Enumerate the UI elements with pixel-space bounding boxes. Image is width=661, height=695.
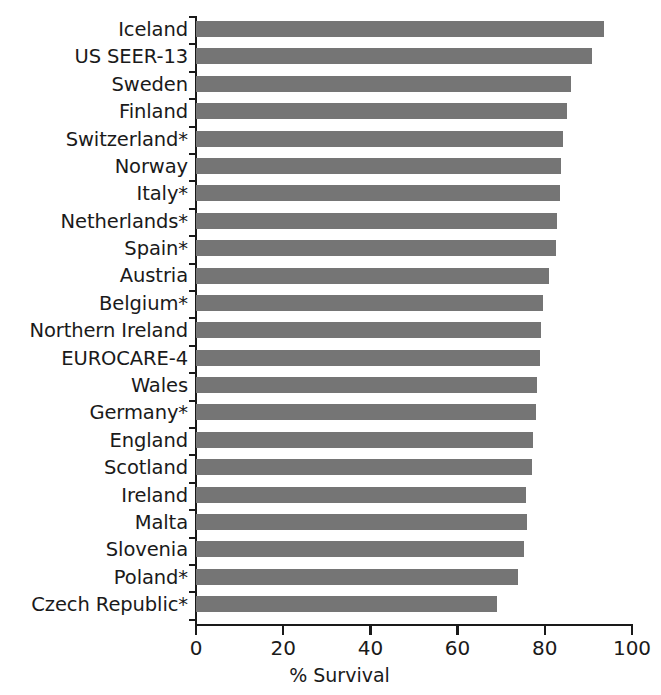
category-label: Sweden [112,75,188,95]
category-label-row: Belgium* [0,290,188,317]
bar [196,185,560,201]
bar-chart: IcelandUS SEER-13SwedenFinlandSwitzerlan… [0,0,661,695]
category-label: Finland [119,102,188,122]
bar [196,350,540,366]
plot-area [196,16,632,626]
bar-row [196,208,632,235]
bar-row [196,16,632,43]
y-axis-tick [189,400,196,402]
category-label-row: Finland [0,98,188,125]
category-label: Slovenia [106,540,188,560]
bar-row [196,509,632,536]
bar-row [196,372,632,399]
category-label: Wales [131,376,188,396]
bar [196,21,604,37]
x-axis-tick [195,626,197,635]
bar [196,596,497,612]
bar [196,459,532,475]
bar [196,213,557,229]
y-axis-tick [189,482,196,484]
y-axis-tick [189,235,196,237]
category-label-row: Germany* [0,399,188,426]
bar [196,541,524,557]
bar [196,404,536,420]
y-axis-tick [189,180,196,182]
x-axis-title: % Survival [0,664,661,686]
y-axis-tick [189,564,196,566]
category-label: Czech Republic* [31,595,188,615]
y-axis-tick [189,43,196,45]
bar [196,48,592,64]
bar [196,240,556,256]
category-label-row: Sweden [0,71,188,98]
x-axis-tick-label: 20 [270,636,295,660]
y-axis-tick [189,372,196,374]
y-axis-tick [189,98,196,100]
bar-row [196,235,632,262]
x-axis-tick-label: 40 [358,636,383,660]
bar [196,131,563,147]
bar [196,76,571,92]
bar-row [196,71,632,98]
x-axis-tick [282,626,284,635]
category-label-row: US SEER-13 [0,43,188,70]
category-label: Poland* [114,568,188,588]
category-label: England [110,431,188,451]
category-label: Netherlands* [61,212,188,232]
category-label-row: Ireland [0,482,188,509]
x-axis-tick [631,626,633,635]
category-label-row: England [0,427,188,454]
x-axis-title-text: % Survival [289,664,390,686]
category-label: Norway [115,157,188,177]
category-label-row: Switzerland* [0,126,188,153]
bar-row [196,290,632,317]
x-axis-line [195,624,633,626]
bar-row [196,454,632,481]
y-axis-tick [189,16,196,18]
y-axis-tick [189,454,196,456]
category-label-row: Austria [0,263,188,290]
bar [196,487,526,503]
bar-row [196,591,632,618]
category-label-row: Norway [0,153,188,180]
bar [196,158,561,174]
category-label-row: Italy* [0,180,188,207]
y-axis-tick [189,126,196,128]
category-label-row: Netherlands* [0,208,188,235]
bar [196,569,518,585]
y-axis-tick [189,208,196,210]
category-label: Italy* [137,184,188,204]
y-axis-tick [189,619,196,621]
x-axis-tick-label: 0 [190,636,203,660]
y-axis-tick [189,537,196,539]
bar [196,295,543,311]
category-label: Spain* [124,239,188,259]
category-label-row: Scotland [0,454,188,481]
bar-row [196,263,632,290]
bar-row [196,153,632,180]
bar [196,268,549,284]
x-axis-tick [544,626,546,635]
bar-row [196,345,632,372]
category-label: Austria [120,266,188,286]
x-axis-tick [456,626,458,635]
x-axis-tick-label: 80 [532,636,557,660]
bar [196,377,537,393]
category-label-row: Slovenia [0,536,188,563]
y-axis-tick [189,317,196,319]
category-label: Iceland [118,20,188,40]
x-axis-tick [369,626,371,635]
bar-row [196,564,632,591]
category-label: Northern Ireland [29,321,188,341]
bar [196,322,541,338]
bar-row [196,180,632,207]
x-axis-tick-label: 100 [613,636,651,660]
bar [196,103,567,119]
y-axis-tick [189,509,196,511]
bar-row [196,482,632,509]
category-label-row: Northern Ireland [0,317,188,344]
bar-row [196,43,632,70]
bar [196,514,527,530]
category-label: Scotland [104,458,188,478]
category-label: Switzerland* [66,130,188,150]
